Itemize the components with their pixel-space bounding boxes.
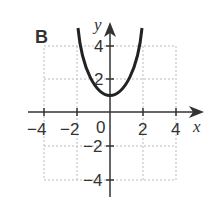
x-tick-neg2: −2 bbox=[60, 120, 79, 139]
graph: B y x −4 −2 0 2 4 4 2 −2 −4 bbox=[0, 0, 209, 212]
y-axis bbox=[106, 30, 114, 197]
y-tick-4: 4 bbox=[94, 37, 103, 56]
x-tick-2: 2 bbox=[138, 120, 147, 139]
y-axis-label: y bbox=[92, 15, 102, 34]
x-tick-neg4: −4 bbox=[27, 120, 46, 139]
x-tick-4: 4 bbox=[171, 120, 180, 139]
y-tick-2: 2 bbox=[94, 70, 103, 89]
x-tick-0: 0 bbox=[96, 118, 105, 137]
x-axis bbox=[28, 108, 196, 116]
y-tick-neg2: −2 bbox=[83, 137, 102, 156]
x-axis-label: x bbox=[192, 117, 201, 136]
y-tick-neg4: −4 bbox=[83, 171, 102, 190]
panel-label: B bbox=[35, 27, 48, 47]
